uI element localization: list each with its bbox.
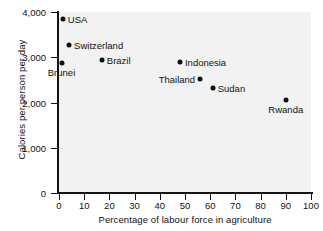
data-point[interactable] bbox=[210, 85, 215, 90]
data-point-label: USA bbox=[68, 13, 88, 24]
y-tick-mark bbox=[51, 12, 58, 13]
data-point[interactable] bbox=[67, 42, 72, 47]
data-point-label: Thailand bbox=[159, 73, 195, 84]
y-tick-label: 3,000 bbox=[22, 52, 46, 63]
x-tick-label: 30 bbox=[129, 200, 140, 211]
data-point-label: Indonesia bbox=[185, 56, 226, 67]
data-point[interactable] bbox=[198, 76, 203, 81]
data-point-label: Brunei bbox=[48, 67, 75, 78]
data-point[interactable] bbox=[59, 60, 64, 65]
data-point-label: Brazil bbox=[107, 54, 131, 65]
x-tick-label: 80 bbox=[255, 200, 266, 211]
y-tick-label: 2,000 bbox=[22, 97, 46, 108]
x-tick-label: 0 bbox=[56, 200, 61, 211]
x-tick-label: 40 bbox=[155, 200, 166, 211]
x-tick-label: 20 bbox=[104, 200, 115, 211]
y-tick-label: 0 bbox=[41, 188, 46, 199]
x-tick-label: 100 bbox=[303, 200, 319, 211]
x-tick-label: 50 bbox=[180, 200, 191, 211]
y-tick-mark bbox=[51, 193, 58, 194]
x-tick-label: 70 bbox=[230, 200, 241, 211]
data-point[interactable] bbox=[99, 57, 104, 62]
x-tick-label: 60 bbox=[205, 200, 216, 211]
y-tick-mark bbox=[51, 57, 58, 58]
x-axis-title: Percentage of labour force in agricultur… bbox=[59, 214, 311, 225]
x-tick-label: 90 bbox=[281, 200, 292, 211]
data-point[interactable] bbox=[177, 59, 182, 64]
y-tick-mark bbox=[51, 103, 58, 104]
data-point[interactable] bbox=[283, 97, 288, 102]
data-point-label: Sudan bbox=[218, 82, 245, 93]
y-tick-label: 1,000 bbox=[22, 142, 46, 153]
data-point[interactable] bbox=[60, 16, 65, 21]
scatter-chart: Calories per person per day 01,0002,0003… bbox=[0, 0, 323, 231]
x-tick-label: 10 bbox=[79, 200, 90, 211]
y-tick-mark bbox=[51, 148, 58, 149]
y-tick-label: 4,000 bbox=[22, 7, 46, 18]
data-point-label: Rwanda bbox=[268, 104, 303, 115]
data-point-label: Switzerland bbox=[74, 39, 123, 50]
